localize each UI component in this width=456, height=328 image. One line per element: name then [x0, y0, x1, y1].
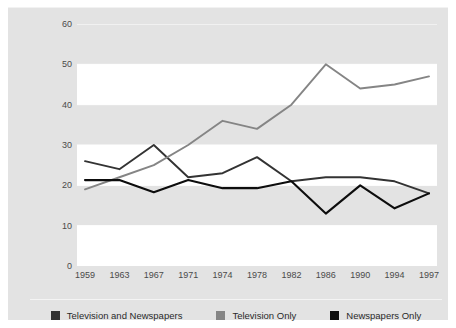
- chart-panel: Percentage 0102030405060 195919631967197…: [8, 8, 448, 320]
- background-bands: [77, 24, 437, 266]
- series-canvas: [77, 24, 437, 266]
- legend-swatch-icon: [330, 311, 339, 320]
- y-tick-label: 10: [32, 221, 72, 231]
- x-tick-label: 1997: [409, 270, 449, 280]
- legend-divider: [30, 299, 442, 300]
- legend-item[interactable]: Newspapers Only: [330, 310, 421, 321]
- chart-figure: Percentage 0102030405060 195919631967197…: [0, 0, 456, 328]
- legend-label: Newspapers Only: [346, 310, 421, 321]
- legend-swatch-icon: [216, 311, 225, 320]
- legend-swatch-icon: [51, 311, 60, 320]
- plot-area: [77, 24, 437, 266]
- legend-item[interactable]: Television Only: [216, 310, 296, 321]
- y-axis-ticks: 0102030405060: [28, 24, 72, 266]
- y-tick-label: 40: [32, 100, 72, 110]
- chart-legend: Television and NewspapersTelevision Only…: [30, 307, 442, 323]
- y-tick-label: 60: [32, 19, 72, 29]
- y-tick-label: 30: [32, 140, 72, 150]
- legend-label: Television Only: [232, 310, 296, 321]
- legend-item[interactable]: Television and Newspapers: [51, 310, 183, 321]
- x-axis-ticks: 1959196319671971197419781982198619901994…: [77, 270, 437, 284]
- y-tick-label: 20: [32, 180, 72, 190]
- legend-label: Television and Newspapers: [67, 310, 183, 321]
- y-tick-label: 50: [32, 59, 72, 69]
